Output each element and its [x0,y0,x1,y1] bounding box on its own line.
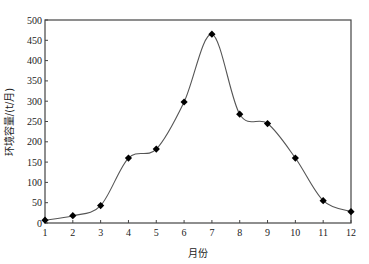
data-point-marker [69,212,76,219]
y-tick-label: 300 [27,96,42,107]
x-tick-label: 5 [154,227,159,238]
y-tick-label: 500 [27,15,42,26]
y-tick-label: 100 [27,177,42,188]
y-tick-label: 250 [27,116,42,127]
x-tick-label: 2 [70,227,75,238]
x-tick-label: 9 [265,227,270,238]
data-point-marker [236,111,243,118]
x-tick-label: 7 [209,227,214,238]
y-tick-label: 0 [37,218,42,229]
y-tick-label: 200 [27,136,42,147]
data-point-marker [180,98,187,105]
x-tick-label: 4 [126,227,131,238]
x-tick-label: 6 [182,227,187,238]
y-tick-label: 350 [27,75,42,86]
y-tick-label: 50 [32,197,42,208]
y-tick-label: 400 [27,55,42,66]
y-tick-label: 150 [27,157,42,168]
axes [45,20,351,223]
x-tick-label: 11 [318,227,328,238]
data-point-marker [292,154,299,161]
x-tick-label: 10 [290,227,300,238]
plot-frame [45,20,351,223]
x-tick-label: 3 [98,227,103,238]
data-line [45,34,351,220]
x-tick-label: 12 [346,227,356,238]
x-tick-label: 1 [43,227,48,238]
y-tick-label: 450 [27,35,42,46]
data-point-marker [347,208,354,215]
x-axis-label: 月份 [188,248,208,259]
x-tick-label: 8 [237,227,242,238]
line-chart: 050100150200250300350400450500 123456789… [0,0,369,264]
y-axis-label: 环境容量/(t/月) [3,88,15,157]
